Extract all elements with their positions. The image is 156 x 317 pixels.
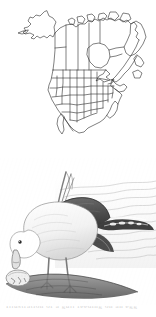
range-map-image[interactable] [0,0,156,150]
range-map-figure[interactable] [0,0,156,150]
plate-texture [0,158,156,305]
infobox-image-column: Illustration of a gull feeding on an egg [0,0,156,317]
species-illustration-figure[interactable] [0,158,156,305]
image-caption-text: Illustration of a gull feeding on an egg [6,306,156,310]
image-caption: Illustration of a gull feeding on an egg [0,306,156,317]
species-illustration-image[interactable] [0,158,156,305]
map-background [0,0,156,150]
